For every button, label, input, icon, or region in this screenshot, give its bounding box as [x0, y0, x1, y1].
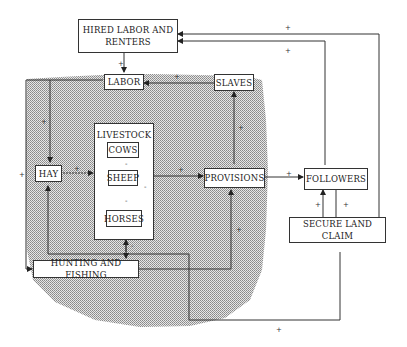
node-horses: HORSES [106, 210, 142, 227]
sign-minus: - [131, 243, 134, 250]
node-followers: FOLLOWERS [304, 168, 368, 190]
node-label: HUNTING AND FISHING [34, 257, 138, 281]
node-sheep: SHEEP [108, 170, 138, 186]
sign-plus: + [343, 202, 349, 209]
node-slaves: SLAVES [214, 74, 254, 91]
sign-plus: + [276, 327, 282, 334]
sign-minus: - [125, 161, 128, 168]
sign-minus: - [125, 198, 128, 205]
node-label-line-1: HIRED LABOR AND [83, 24, 174, 36]
node-label-line-2: RENTERS [105, 36, 151, 48]
sign-plus: + [238, 125, 244, 132]
node-provisions: PROVISIONS [204, 168, 265, 188]
sign-plus: + [41, 119, 47, 126]
node-label: SECURE LAND CLAIM [290, 218, 385, 242]
sign-minus: - [144, 184, 147, 191]
sign-plus: + [118, 61, 124, 68]
sign-plus: + [286, 171, 292, 178]
node-labor: LABOR [104, 74, 144, 90]
node-secure-land-claim: SECURE LAND CLAIM [289, 217, 386, 243]
node-label: SHEEP [107, 172, 139, 184]
node-label: PROVISIONS [205, 172, 265, 184]
sign-plus: + [74, 166, 80, 173]
sign-plus: + [174, 74, 180, 81]
node-cows: COWS [107, 142, 139, 158]
node-label: LIVESTOCK [97, 129, 151, 141]
node-label: LABOR [108, 76, 141, 88]
sign-plus: + [19, 172, 25, 179]
node-label: COWS [109, 144, 138, 156]
sign-plus: + [178, 167, 184, 174]
node-hunting-and-fishing: HUNTING AND FISHING [33, 260, 139, 278]
diagram-canvas: HIRED LABOR AND RENTERS LABOR SLAVES LIV… [0, 0, 407, 347]
sign-plus: + [285, 25, 291, 32]
node-label: HAY [39, 168, 58, 180]
node-hired-labor-and-renters: HIRED LABOR AND RENTERS [78, 19, 178, 53]
sign-plus: + [285, 48, 291, 55]
node-label: SLAVES [216, 77, 253, 89]
sign-plus: + [236, 227, 242, 234]
node-hay: HAY [35, 165, 62, 182]
node-label: HORSES [104, 213, 144, 225]
node-label: FOLLOWERS [306, 173, 366, 185]
sign-plus: + [315, 202, 321, 209]
